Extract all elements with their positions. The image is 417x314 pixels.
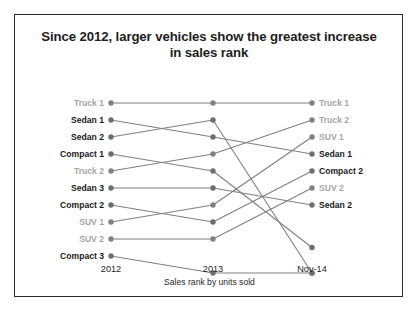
data-point <box>210 185 215 190</box>
slope-line <box>213 137 312 154</box>
left-label-sedan-3: Sedan 3 <box>15 184 104 193</box>
x-tick-2012: 2012 <box>71 264 151 274</box>
data-point <box>108 168 113 173</box>
data-point <box>108 100 113 105</box>
right-label-sedan-1: Sedan 1 <box>319 150 352 159</box>
data-point <box>210 134 215 139</box>
data-point <box>309 100 314 105</box>
left-label-sedan-2: Sedan 2 <box>15 133 104 142</box>
slope-line <box>213 137 312 205</box>
data-point <box>210 219 215 224</box>
left-label-sedan-1: Sedan 1 <box>15 116 104 125</box>
data-point <box>108 202 113 207</box>
data-point <box>108 134 113 139</box>
data-point <box>108 253 113 258</box>
data-point <box>309 245 314 250</box>
data-point <box>108 117 113 122</box>
axis-caption: Sales rank by units sold <box>15 277 404 287</box>
left-label-suv-2: SUV 2 <box>15 235 104 244</box>
data-point <box>309 168 314 173</box>
data-point <box>108 236 113 241</box>
data-point <box>210 168 215 173</box>
right-label-sedan-2: Sedan 2 <box>319 201 352 210</box>
x-tick-nov-14: Nov-14 <box>272 264 352 274</box>
data-point <box>309 134 314 139</box>
data-point <box>309 202 314 207</box>
data-point <box>309 117 314 122</box>
right-label-suv-2: SUV 2 <box>319 184 344 193</box>
slope-line <box>213 171 312 248</box>
data-point <box>210 117 215 122</box>
right-label-truck-2: Truck 2 <box>319 116 349 125</box>
left-label-suv-1: SUV 1 <box>15 218 104 227</box>
slope-line <box>213 120 312 154</box>
left-label-compact-3: Compact 3 <box>15 252 104 261</box>
x-tick-2013: 2013 <box>173 264 253 274</box>
left-label-truck-2: Truck 2 <box>15 167 104 176</box>
data-point <box>108 185 113 190</box>
data-point <box>210 100 215 105</box>
slide-frame: Since 2012, larger vehicles show the gre… <box>14 14 403 297</box>
left-label-compact-1: Compact 1 <box>15 150 104 159</box>
right-label-truck-1: Truck 1 <box>319 99 349 108</box>
data-point <box>210 202 215 207</box>
right-label-suv-1: SUV 1 <box>319 133 344 142</box>
right-label-compact-2: Compact 2 <box>319 167 363 176</box>
left-label-compact-2: Compact 2 <box>15 201 104 210</box>
data-point <box>210 151 215 156</box>
data-point <box>108 219 113 224</box>
slope-line <box>213 171 312 222</box>
data-point <box>210 236 215 241</box>
left-label-truck-1: Truck 1 <box>15 99 104 108</box>
data-point <box>309 185 314 190</box>
data-point <box>309 151 314 156</box>
data-point <box>108 151 113 156</box>
